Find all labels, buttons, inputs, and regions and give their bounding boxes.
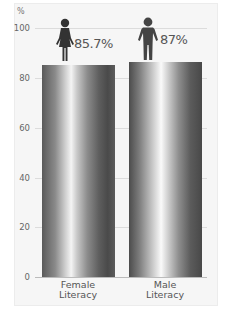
value-label-male: 87% xyxy=(160,32,187,47)
x-label-female: Female Literacy xyxy=(38,280,118,300)
y-tick-100: 100 xyxy=(0,23,30,33)
y-tick-0: 0 xyxy=(0,272,30,282)
female-figure-icon xyxy=(55,18,75,62)
y-axis-unit: % xyxy=(17,7,25,16)
y-tick-60: 60 xyxy=(0,123,30,133)
x-axis-baseline xyxy=(35,277,207,278)
y-tick-80: 80 xyxy=(0,73,30,83)
bar-female-literacy xyxy=(42,65,115,277)
male-figure-icon xyxy=(137,17,159,61)
y-tick-20: 20 xyxy=(0,222,30,232)
bar-male-literacy xyxy=(129,62,202,277)
x-label-male: Male Literacy xyxy=(125,280,205,300)
x-label-female-line2: Literacy xyxy=(38,290,118,300)
x-label-male-line2: Literacy xyxy=(125,290,205,300)
value-label-female: 85.7% xyxy=(74,36,113,51)
y-tick-40: 40 xyxy=(0,173,30,183)
